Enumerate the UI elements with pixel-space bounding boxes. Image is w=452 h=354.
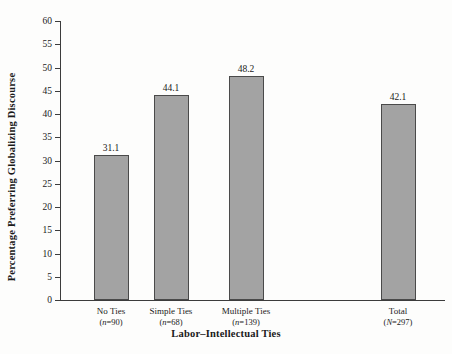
y-tick-mark xyxy=(55,114,60,115)
y-tick-mark xyxy=(55,254,60,255)
y-tick-mark xyxy=(55,44,60,45)
plot-area: 051015202530354045505560 31.144.148.242.… xyxy=(60,21,445,300)
bar-chart-figure: Percentage Preferring Globalizing Discou… xyxy=(0,0,452,354)
y-tick-mark xyxy=(55,137,60,138)
y-tick-mark xyxy=(55,21,60,22)
y-tick-label: 50 xyxy=(43,63,53,73)
x-axis-line xyxy=(60,300,445,301)
bar[interactable]: 31.1 xyxy=(94,155,129,300)
y-tick-mark xyxy=(55,300,60,301)
x-tick-label: Total(N=297) xyxy=(384,306,413,328)
y-tick-label: 25 xyxy=(43,179,53,189)
y-tick-mark xyxy=(55,161,60,162)
category-count: (N=297) xyxy=(384,317,413,328)
y-axis-title: Percentage Preferring Globalizing Discou… xyxy=(0,0,22,354)
category-count: (n=68) xyxy=(150,317,193,328)
bar[interactable]: 48.2 xyxy=(229,76,264,300)
y-tick-mark xyxy=(55,68,60,69)
y-tick-label: 45 xyxy=(43,86,53,96)
y-tick-mark xyxy=(55,230,60,231)
category-count: (n=139) xyxy=(222,317,270,328)
category-name: Simple Ties xyxy=(150,306,193,317)
bar-value-label: 31.1 xyxy=(103,143,120,153)
category-name: Multiple Ties xyxy=(222,306,270,317)
category-count: (n=90) xyxy=(97,317,125,328)
y-tick-label: 35 xyxy=(43,132,53,142)
y-tick-label: 0 xyxy=(47,295,52,305)
bar[interactable]: 44.1 xyxy=(154,95,189,300)
y-axis-line xyxy=(60,21,61,300)
category-name: No Ties xyxy=(97,306,125,317)
y-tick-mark xyxy=(55,207,60,208)
y-tick-label: 20 xyxy=(43,202,53,212)
y-tick-label: 30 xyxy=(43,156,53,166)
y-tick-mark xyxy=(55,184,60,185)
x-tick-label: Simple Ties(n=68) xyxy=(150,306,193,328)
y-tick-label: 5 xyxy=(47,272,52,282)
y-tick-label: 10 xyxy=(43,249,53,259)
bar[interactable]: 42.1 xyxy=(381,104,416,300)
y-tick-label: 55 xyxy=(43,39,53,49)
category-name: Total xyxy=(384,306,413,317)
x-tick-label: Multiple Ties(n=139) xyxy=(222,306,270,328)
y-tick-label: 40 xyxy=(43,109,53,119)
bar-value-label: 48.2 xyxy=(238,64,255,74)
bar-value-label: 42.1 xyxy=(390,92,407,102)
y-tick-label: 60 xyxy=(43,16,53,26)
x-axis-title: Labor–Intellectual Ties xyxy=(0,328,452,339)
y-tick-label: 15 xyxy=(43,225,53,235)
y-tick-mark xyxy=(55,91,60,92)
y-tick-mark xyxy=(55,277,60,278)
x-tick-label: No Ties(n=90) xyxy=(97,306,125,328)
bar-value-label: 44.1 xyxy=(163,83,180,93)
